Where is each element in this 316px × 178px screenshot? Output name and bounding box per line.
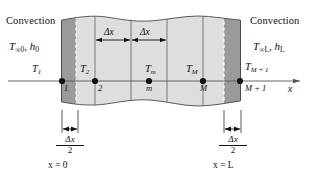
right-coeff-subscript: L: [280, 45, 285, 54]
right-half-dimension: [224, 110, 241, 133]
node-index-m: m: [146, 84, 152, 93]
node-temp-label-M: TM: [186, 64, 198, 76]
figure-canvas: Convection T∞0, h0 Convection T∞L, hL T1…: [0, 0, 316, 178]
node-temp-subscript-m: m: [151, 68, 156, 76]
right-ambient-conditions: T∞L, hL: [253, 41, 285, 53]
node-index-M: M: [200, 84, 207, 93]
node-temp-subscript-M-plus-1: M + 1: [251, 66, 269, 74]
node-dot-M-plus-1: [237, 78, 243, 84]
node-temp-label-1: T1: [32, 64, 41, 76]
right-half-spacing-fraction: Δx 2: [219, 135, 247, 155]
node-temp-label-2: T2: [80, 64, 89, 76]
node-index-1: 1: [64, 84, 68, 93]
right-position-label: x = L: [213, 161, 234, 171]
right-half-spacing-denominator: 2: [219, 146, 247, 155]
right-convection-label: Convection: [250, 16, 299, 27]
delta-x-label-2: Δx: [140, 28, 150, 38]
wall-body: [60, 10, 242, 110]
left-half-spacing-numerator: Δx: [56, 135, 84, 144]
node-index-M-plus-1: M + 1: [245, 84, 266, 93]
left-half-spacing-fraction: Δx 2: [56, 135, 84, 155]
left-convection-label: Convection: [6, 16, 55, 27]
left-half-control-volume: [60, 10, 76, 110]
node-temp-subscript-2: 2: [86, 68, 90, 76]
left-ambient-conditions: T∞0, h0: [9, 41, 39, 53]
node-temp-subscript-1: 1: [38, 68, 42, 76]
nodal-network-drawing: [0, 0, 316, 178]
left-half-dimension: [62, 110, 78, 133]
node-temp-label-M-plus-1: TM + 1: [245, 62, 268, 74]
x-axis-label: x: [288, 84, 292, 94]
node-index-2: 2: [98, 84, 102, 93]
delta-x-label-1: Δx: [104, 28, 114, 38]
left-half-spacing-denominator: 2: [56, 146, 84, 155]
left-coeff-subscript: 0: [35, 45, 39, 54]
node-temp-label-m: Tm: [145, 64, 156, 76]
right-ambient-temp-subscript: ∞L: [259, 45, 269, 54]
right-half-spacing-numerator: Δx: [219, 135, 247, 144]
node-temp-subscript-M: M: [192, 68, 198, 76]
right-half-control-volume: [224, 10, 242, 110]
left-ambient-temp-subscript: ∞0: [15, 45, 24, 54]
left-position-label: x = 0: [48, 161, 68, 171]
